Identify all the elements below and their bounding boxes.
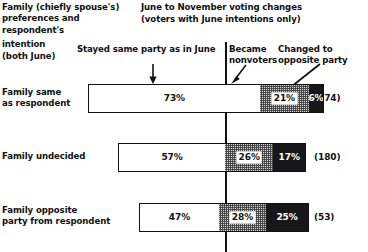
row-count-family-opposite-party-from-respondent: (53) (314, 212, 334, 222)
segment-changed-opposite-party[interactable]: 25% (266, 204, 308, 231)
stacked-bar-family-undecided[interactable]: 57% 26% 17% (118, 143, 306, 172)
legend-stayed-same-party-label: Stayed same party as in June (77, 44, 215, 55)
segment-stayed-same-party[interactable]: 47% (140, 204, 219, 231)
segment-stayed-same-party[interactable]: 73% (89, 85, 260, 112)
legend-stayed-same-party: Stayed same party as in June (77, 44, 215, 55)
segment-became-nonvoters[interactable]: 28% (219, 204, 266, 231)
segment-value-stayed-same-party: 47% (169, 213, 190, 222)
row-label-family-opposite-party-from-respondent: Family opposite party from respondent (2, 205, 120, 227)
segment-became-nonvoters[interactable]: 21% (260, 85, 309, 112)
row-axis-title-line-2: preferences and (2, 13, 134, 24)
legend-changed-opposite-party-line-1: Changed to (278, 44, 348, 55)
row-label-family-undecided: Family undecided (2, 151, 120, 162)
segment-value-became-nonvoters: 26% (237, 152, 261, 164)
legend-became-nonvoters-line-1: Became (229, 44, 277, 55)
stacked-bar-chart: Family (chiefly spouse's) preferences an… (0, 0, 368, 252)
chart-title-line-1: June to November voting changes (141, 2, 367, 14)
segment-value-stayed-same-party: 57% (161, 153, 182, 162)
segment-became-nonvoters[interactable]: 26% (225, 144, 273, 171)
row-axis-title-line-1: Family (chiefly spouse's) (2, 2, 134, 13)
stacked-bar-family-opposite-party-from-respondent[interactable]: 47% 28% 25% (139, 203, 309, 232)
segment-stayed-same-party[interactable]: 57% (119, 144, 225, 171)
segment-value-changed-opposite-party: 6% (309, 94, 323, 103)
row-label-line-2: party from respondent (2, 216, 120, 227)
row-label-line-1: Family opposite (2, 205, 120, 216)
segment-changed-opposite-party[interactable]: 6% (309, 85, 323, 112)
segment-value-changed-opposite-party: 17% (279, 153, 300, 162)
segment-value-became-nonvoters: 28% (230, 212, 254, 224)
arrow-diagonal-became-nonvoters (231, 64, 249, 84)
arrow-down-stayed-same-party (146, 64, 160, 84)
segment-value-stayed-same-party: 73% (164, 94, 185, 103)
chart-title: June to November voting changes (voters … (141, 2, 367, 25)
segment-value-changed-opposite-party: 25% (276, 213, 297, 222)
stacked-bar-family-same-as-respondent[interactable]: 73% 21% 6% (88, 84, 324, 113)
row-axis-title-line-3: respondent's (2, 25, 134, 36)
segment-value-became-nonvoters: 21% (272, 93, 296, 105)
segment-changed-opposite-party[interactable]: 17% (273, 144, 305, 171)
row-label-line-1: Family undecided (2, 151, 120, 162)
row-count-family-undecided: (180) (314, 152, 341, 162)
chart-title-line-2: (voters with June intentions only) (141, 14, 367, 26)
